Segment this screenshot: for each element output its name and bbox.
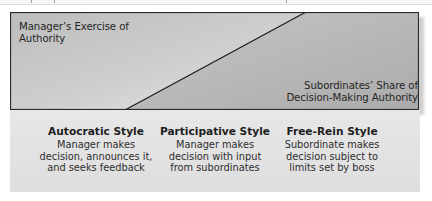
subordinate-authority-label: Subordinates’ Share of Decision-Making A… <box>286 80 418 104</box>
manager-label-line: Authority <box>19 33 129 45</box>
strip-tick <box>31 0 32 3</box>
style-title: Free-Rein Style <box>262 125 402 138</box>
subordinate-label-line: Decision-Making Authority <box>286 92 418 104</box>
subordinate-label-line: Subordinates’ Share of <box>286 80 418 92</box>
manager-label-line: Manager’s Exercise of <box>19 21 129 33</box>
leadership-styles-panel: Autocratic Style Manager makes decision,… <box>10 110 420 192</box>
style-free-rein: Free-Rein Style Subordinate makes decisi… <box>262 125 402 174</box>
strip-tick <box>54 0 55 3</box>
style-description-line: Subordinate makes <box>262 139 402 151</box>
strip-tick <box>286 0 287 3</box>
manager-authority-label: Manager’s Exercise of Authority <box>19 21 129 45</box>
style-description-line: limits set by boss <box>262 162 402 174</box>
top-cropped-strip <box>0 0 432 5</box>
style-description-line: decision subject to <box>262 151 402 163</box>
